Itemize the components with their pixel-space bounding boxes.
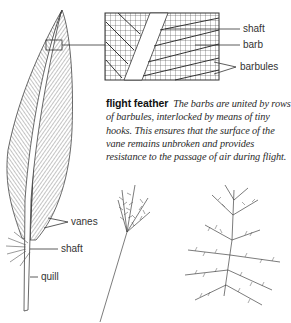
label-shaft: shaft [61,243,83,255]
figure-caption: flight featherThe barbs are united by ro… [106,97,291,163]
label-vanes: vanes [71,216,98,228]
label-barb: barb [243,39,263,51]
down-feather [100,185,150,322]
flight-feather [6,10,105,311]
barb-detail-inset [105,13,240,80]
label-shaft-detail: shaft [243,23,265,35]
downy-plume [185,185,280,305]
label-quill: quill [41,271,59,283]
caption-term: flight feather [106,97,168,109]
label-barbules: barbules [240,61,278,73]
